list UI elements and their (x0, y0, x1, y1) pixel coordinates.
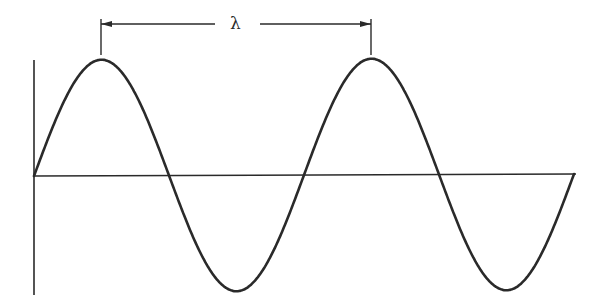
wavelength-label: λ (230, 15, 241, 32)
wave-diagram: λ (0, 0, 594, 303)
wave-diagram-canvas (0, 0, 594, 303)
arrowhead-left-icon (101, 21, 112, 27)
arrowhead-right-icon (360, 21, 371, 27)
